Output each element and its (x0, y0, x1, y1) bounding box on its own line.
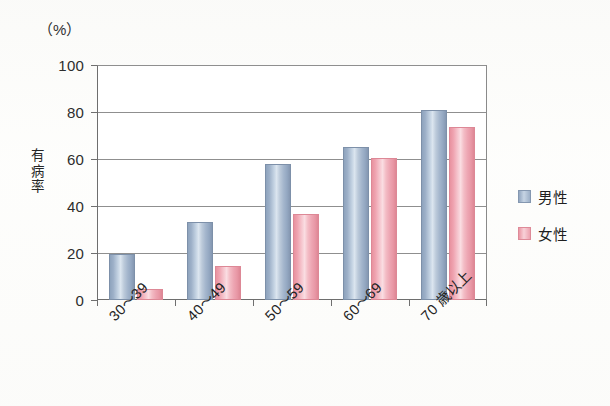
y-tick-label-100: 100 (58, 57, 84, 74)
gridline-20 (98, 253, 486, 254)
y-tick-label-80: 80 (67, 104, 84, 121)
legend-item-female: 女性 (518, 225, 602, 242)
x-axis-category-labels: 30〜3940〜4950〜5960〜6970 歳以上 (97, 300, 487, 400)
y-tick-label-60: 60 (67, 151, 84, 168)
gridline-100 (98, 65, 486, 66)
female-swatch-icon (518, 227, 531, 240)
male-swatch-icon (518, 190, 531, 203)
gridline-60 (98, 159, 486, 160)
plot-area (97, 65, 487, 300)
legend-label-female: 女性 (538, 223, 567, 244)
chart-legend: 男性 女性 (518, 188, 602, 262)
bar-chart: （%） 有 病 率 020406080100 30〜3940〜4950〜5960… (0, 0, 610, 406)
gridline-40 (98, 206, 486, 207)
gridline-80 (98, 112, 486, 113)
y-tick-label-0: 0 (75, 292, 84, 309)
legend-label-male: 男性 (538, 186, 567, 207)
y-axis-tick-labels: 020406080100 (0, 65, 92, 300)
y-tick-label-20: 20 (67, 245, 84, 262)
y-tick-label-40: 40 (67, 198, 84, 215)
y-axis-unit-label: （%） (38, 18, 81, 39)
legend-item-male: 男性 (518, 188, 602, 205)
